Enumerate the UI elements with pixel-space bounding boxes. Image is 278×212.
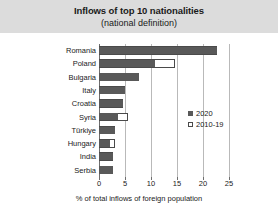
chart-title-band: Inflows of top 10 nationalities (nationa… — [0, 0, 278, 33]
bar-row — [99, 57, 229, 70]
tick-label: 10 — [147, 179, 155, 188]
bar-2020 — [99, 47, 217, 54]
bar-row — [99, 164, 229, 177]
bar-2020 — [99, 113, 118, 120]
legend-swatch-solid — [188, 111, 193, 116]
category-label: Hungary — [4, 137, 96, 150]
bar-2020 — [99, 60, 155, 67]
bar-2020 — [99, 100, 123, 107]
legend-label: 2020 — [196, 109, 213, 118]
category-label: Romania — [4, 44, 96, 57]
category-label: Serbia — [4, 164, 96, 177]
chart-title: Inflows of top 10 nationalities — [74, 5, 204, 17]
category-label: Poland — [4, 57, 96, 70]
category-label: Bulgaria — [4, 71, 96, 84]
tick-label: 20 — [199, 179, 207, 188]
x-axis-label: % of total inflows of foreign population — [0, 194, 278, 203]
bar-2020 — [99, 140, 110, 147]
legend-item: 2020 — [188, 108, 244, 118]
tick-label: 15 — [173, 179, 181, 188]
bar-row — [99, 71, 229, 84]
tick-label: 25 — [225, 179, 233, 188]
bar-2020 — [99, 153, 113, 160]
bar-row — [99, 150, 229, 163]
tick-label: 0 — [97, 179, 101, 188]
legend-label: 2010-19 — [196, 120, 224, 129]
legend-item: 2010-19 — [188, 119, 244, 129]
category-axis-labels: RomaniaPolandBulgariaItalyCroatiaSyriaTü… — [3, 44, 96, 177]
category-label: India — [4, 150, 96, 163]
bar-2020 — [99, 166, 113, 173]
category-label: Syria — [4, 111, 96, 124]
bar-row — [99, 137, 229, 150]
category-label: Türkiye — [4, 124, 96, 137]
bar-row — [99, 44, 229, 57]
category-label: Croatia — [4, 97, 96, 110]
bar-row — [99, 84, 229, 97]
tick-label: 5 — [123, 179, 127, 188]
legend-swatch-open — [188, 122, 193, 127]
chart-legend: 20202010-19 — [188, 108, 244, 130]
bar-2020 — [99, 73, 139, 80]
bar-2020 — [99, 87, 125, 94]
category-label: Italy — [4, 84, 96, 97]
chart-subtitle: (national definition) — [101, 17, 177, 29]
chart-figure: Inflows of top 10 nationalities (nationa… — [0, 0, 278, 212]
bar-2020 — [99, 127, 115, 134]
